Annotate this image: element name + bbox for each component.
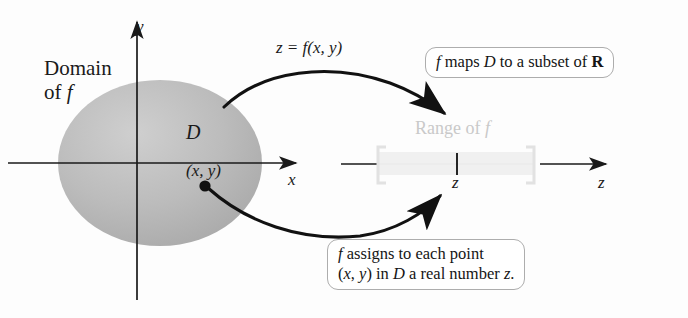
range-label: Range of f — [415, 118, 490, 138]
callout-top-r: R — [591, 52, 603, 71]
domain-caption-line1: Domain — [44, 57, 112, 81]
domain-caption-line2: of f — [44, 81, 112, 105]
map-arrow-upper — [224, 72, 444, 113]
callout-top-maps: maps — [441, 52, 484, 71]
point-xy-label: (x, y) — [186, 161, 221, 180]
mapping-equation-text: z = f(x, y) — [276, 38, 342, 57]
domain-caption: Domain of f — [44, 57, 112, 104]
callout-bottom-line1: f assigns to each point — [338, 244, 514, 264]
figure-canvas: y x Domain of f D (x, y) z = f(x, y) Ran… — [0, 0, 688, 318]
callout-top-subset: to a subset of — [496, 52, 592, 71]
z-axis-label: z — [598, 173, 605, 192]
y-axis-label: y — [136, 17, 144, 36]
mapping-equation-label: z = f(x, y) — [276, 38, 342, 57]
callout-top-d: D — [484, 52, 496, 71]
domain-set-label: D — [186, 121, 200, 143]
z-tick-label: z — [452, 173, 459, 192]
callout-maps-to-subset: f maps D to a subset of R — [425, 47, 614, 78]
callout-bottom-line2: (x, y) in D a real number z. — [338, 264, 514, 284]
callout-assigns-real-number: f assigns to each point (x, y) in D a re… — [327, 239, 525, 290]
x-axis-label: x — [288, 170, 296, 189]
range-band-highlight — [378, 152, 534, 175]
